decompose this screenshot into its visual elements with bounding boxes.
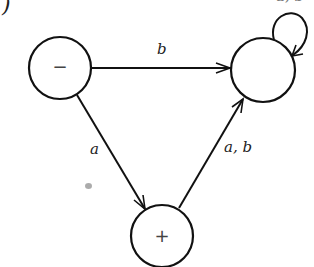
- edge-a-label: a: [90, 142, 99, 157]
- edge-ab-label: a, b: [224, 140, 252, 155]
- edge-ab-arrowhead-icon: [232, 99, 243, 113]
- state-unlabeled-circle: [231, 38, 295, 102]
- state-minus-label: −: [52, 58, 67, 76]
- edge-a-arrowhead-icon: [134, 195, 145, 209]
- scan-smudge: [85, 183, 92, 189]
- edge-b-label: b: [157, 42, 167, 57]
- edge-a-line: [77, 95, 145, 209]
- automaton-diagram: ) a, b − + b a a, b: [0, 0, 314, 267]
- state-plus-label: +: [154, 227, 169, 245]
- self-loop-path: [273, 13, 307, 55]
